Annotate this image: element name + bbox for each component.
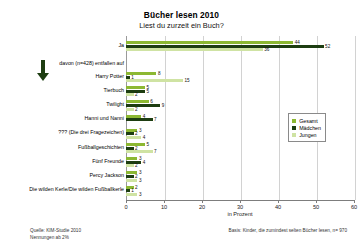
gridline xyxy=(355,36,356,200)
legend-item-maedchen: Mädchen xyxy=(292,125,321,131)
annotation-label: davon (n=428) entfallen auf xyxy=(0,60,124,66)
bar-value-label: 4 xyxy=(143,136,146,139)
category-label: Tierbuch xyxy=(104,88,124,93)
bar-value-label: 2 xyxy=(135,93,138,96)
bar-jungen xyxy=(126,150,153,153)
x-axis-title: in Prozent xyxy=(126,211,354,217)
gridline xyxy=(203,36,204,200)
footer-source-line2: Nennungen ab 2% xyxy=(30,235,81,242)
footer-source: Quelle: KIM-Studie 2010 Nennungen ab 2% xyxy=(30,228,81,242)
bar-value-label: 2 xyxy=(135,108,138,111)
bar-value-label: 3 xyxy=(139,179,142,182)
legend-item-gesamt: Gesamt xyxy=(292,118,321,124)
gridline xyxy=(279,36,280,200)
gridline xyxy=(165,36,166,200)
bar-value-label: 15 xyxy=(185,79,190,82)
category-label: Twilight xyxy=(106,102,124,107)
legend-label-gesamt: Gesamt xyxy=(299,118,318,124)
down-arrow-icon xyxy=(36,60,50,82)
x-tick-label: 30 xyxy=(237,204,243,210)
category-label: Ja xyxy=(118,43,124,48)
x-tick xyxy=(354,200,355,203)
x-tick-label: 20 xyxy=(199,204,205,210)
gridline xyxy=(241,36,242,200)
chart-title: Bücher lesen 2010 xyxy=(0,10,363,20)
x-tick xyxy=(202,200,203,203)
bar-jungen xyxy=(126,179,137,182)
bar-value-label: 2 xyxy=(135,164,138,167)
bar-value-label: 8 xyxy=(158,72,161,75)
legend-label-maedchen: Mädchen xyxy=(299,125,321,131)
bar-jungen xyxy=(126,193,137,196)
bar-value-label: 4 xyxy=(143,161,146,164)
footer-basis: Basis: Kinder, die zumindest selten Büch… xyxy=(229,228,347,233)
category-label: Die wilden Kerle/Die wilden Fußballkerle xyxy=(29,187,124,192)
x-tick-label: 10 xyxy=(161,204,167,210)
bar-jungen xyxy=(126,164,134,167)
bar-value-label: 3 xyxy=(139,129,142,132)
bar-value-label: 36 xyxy=(264,48,269,51)
bar-value-label: 9 xyxy=(162,104,165,107)
x-tick xyxy=(316,200,317,203)
x-tick xyxy=(126,200,127,203)
x-tick-label: 40 xyxy=(275,204,281,210)
bar-maedchen xyxy=(126,118,153,121)
bar-value-label: 5 xyxy=(147,143,150,146)
category-label: Harry Potter xyxy=(95,74,124,79)
bar-value-label: 3 xyxy=(139,193,142,196)
legend-swatch-jungen xyxy=(292,133,296,137)
category-label: Hanni und Nanni xyxy=(85,116,124,121)
bar-value-label: 7 xyxy=(154,118,157,121)
bar-jungen xyxy=(126,48,263,51)
footer-source-line1: Quelle: KIM-Studie 2010 xyxy=(30,228,81,235)
legend-item-jungen: Jungen xyxy=(292,132,321,138)
x-tick-label: 0 xyxy=(124,204,127,210)
x-tick xyxy=(164,200,165,203)
x-tick-label: 50 xyxy=(313,204,319,210)
bar-value-label: 52 xyxy=(325,45,330,48)
category-label: Percy Jackson xyxy=(90,173,124,178)
x-tick-label: 60 xyxy=(351,204,357,210)
x-tick xyxy=(240,200,241,203)
bar-value-label: 3 xyxy=(139,171,142,174)
bar-jungen xyxy=(126,108,134,111)
bar-jungen xyxy=(126,79,183,82)
bar-jungen xyxy=(126,136,141,139)
chart-subtitle: Liest du zurzeit ein Buch? xyxy=(0,21,363,30)
bar-value-label: 2 xyxy=(135,186,138,189)
chart-container: Bücher lesen 2010 Liest du zurzeit ein B… xyxy=(0,0,363,252)
chart-legend: Gesamt Mädchen Jungen xyxy=(288,113,326,142)
legend-swatch-gesamt xyxy=(292,119,296,123)
bar-value-label: 5 xyxy=(147,90,150,93)
legend-swatch-maedchen xyxy=(292,126,296,130)
bar-value-label: 7 xyxy=(154,150,157,153)
x-tick xyxy=(278,200,279,203)
category-label: ??? (Die drei Fragezeichen) xyxy=(58,130,124,135)
category-label: Fußballgeschichten xyxy=(78,145,124,150)
category-label: Fünf Freunde xyxy=(92,159,124,164)
bar-jungen xyxy=(126,93,134,96)
legend-label-jungen: Jungen xyxy=(299,132,316,138)
